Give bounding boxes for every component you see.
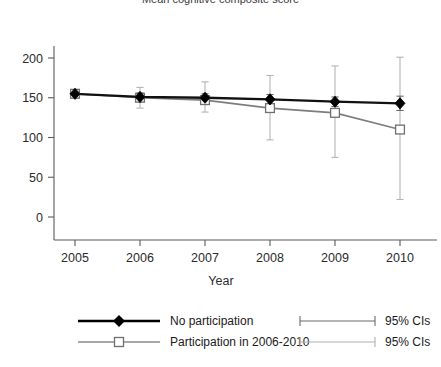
open-square-icon xyxy=(115,338,124,347)
legend-label-ci-light: 95% CIs xyxy=(385,335,430,349)
x-tick-label: 2005 xyxy=(61,251,89,265)
ci-bars-participation xyxy=(71,57,403,199)
legend-label-no-participation: No participation xyxy=(170,314,253,328)
y-tick-label: 100 xyxy=(22,131,43,145)
legend-entry-no-participation: No participation xyxy=(78,314,253,328)
x-axis-ticks: 200520062007200820092010 xyxy=(61,240,414,265)
legend-label-ci-dark: 95% CIs xyxy=(385,314,430,328)
legend-entry-ci-dark: 95% CIs xyxy=(300,314,430,328)
legend-label-participation: Participation in 2006-2010 xyxy=(170,335,310,349)
data-point-open-square xyxy=(331,108,340,117)
filled-diamond-icon xyxy=(113,315,125,327)
y-axis-ticks: 050100150200 xyxy=(22,52,54,225)
legend-entry-participation: Participation in 2006-2010 xyxy=(78,335,310,349)
x-tick-label: 2008 xyxy=(256,251,284,265)
chart-title: Mean cognitive composite score xyxy=(0,0,441,5)
x-axis-title: Year xyxy=(208,274,233,288)
data-point-open-square xyxy=(396,125,405,134)
y-tick-label: 50 xyxy=(29,171,43,185)
x-tick-label: 2010 xyxy=(386,251,414,265)
x-tick-label: 2007 xyxy=(191,251,219,265)
data-point-filled-diamond xyxy=(395,98,405,109)
data-point-filled-diamond xyxy=(330,96,340,107)
chart-legend: No participation Participation in 2006-2… xyxy=(0,305,441,365)
y-tick-label: 0 xyxy=(36,211,43,225)
y-tick-label: 150 xyxy=(22,91,43,105)
x-tick-label: 2009 xyxy=(321,251,349,265)
series-polyline xyxy=(75,94,400,104)
series-line-no-participation xyxy=(75,94,400,104)
x-tick-label: 2006 xyxy=(126,251,154,265)
figure-container: Mean cognitive composite score 050100150… xyxy=(0,0,441,367)
legend-entry-ci-light: 95% CIs xyxy=(300,335,430,349)
y-tick-label: 200 xyxy=(22,52,43,66)
